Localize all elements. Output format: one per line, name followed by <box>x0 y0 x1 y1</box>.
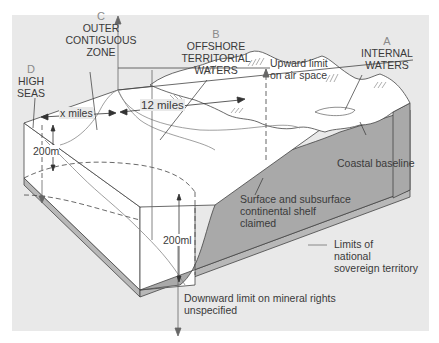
x-miles-label: x miles <box>59 107 94 119</box>
legend-label: Limits of national sovereign territory <box>334 238 418 274</box>
upward-limit-line-1: Upward limit <box>270 57 328 69</box>
zone-a-letter: A <box>359 35 415 47</box>
zone-b-name-line-1: OFFSHORE <box>176 40 256 52</box>
legend-line-3: sovereign territory <box>334 262 418 274</box>
zone-a-label: A INTERNAL WATERS <box>359 35 415 71</box>
upward-limit-line-2: on air space <box>270 69 328 81</box>
zone-d-name-line-1: HIGH <box>14 75 48 87</box>
zone-b-name-line-3: WATERS <box>176 64 256 76</box>
zone-b-label: B OFFSHORE TERRITORIAL WATERS <box>176 28 256 76</box>
legend-line-1: Limits of <box>334 238 418 250</box>
zone-d-name-line-2: SEAS <box>14 87 48 99</box>
zone-c-name-line-1: OUTER <box>56 22 146 34</box>
zone-c-letter: C <box>56 10 146 22</box>
zone-c-name-line-2: CONTIGUOUS <box>56 34 146 46</box>
zone-b-letter: B <box>176 28 256 40</box>
downward-limit-line-1: Downward limit on mineral rights <box>184 292 336 304</box>
depth-front-label: 200ml <box>163 234 192 246</box>
zone-a-name-line-1: INTERNAL <box>359 47 415 59</box>
zone-c-name-line-3: ZONE <box>56 46 146 58</box>
shelf-claim-line-2: continental shelf <box>240 205 351 217</box>
zone-c-label: C OUTER CONTIGUOUS ZONE <box>56 10 146 58</box>
upward-limit-label: Upward limit on air space <box>270 57 328 81</box>
shelf-claim-line-1: Surface and subsurface <box>240 193 351 205</box>
downward-limit-line-2: unspecified <box>184 304 336 316</box>
coastal-baseline-label: Coastal baseline <box>337 157 415 169</box>
block-right-face <box>393 103 410 198</box>
depth-left-label: 200m <box>33 145 59 157</box>
shelf-claim-label: Surface and subsurface continental shelf… <box>240 193 351 229</box>
twelve-miles-label: 12 miles <box>140 99 185 111</box>
zone-b-name-line-2: TERRITORIAL <box>176 52 256 64</box>
zone-a-name-line-2: WATERS <box>359 59 415 71</box>
law-of-the-sea-diagram: C OUTER CONTIGUOUS ZONE D HIGH SEAS B OF… <box>0 0 439 343</box>
zone-d-label: D HIGH SEAS <box>14 63 48 99</box>
legend-line-2: national <box>334 250 418 262</box>
downward-limit-label: Downward limit on mineral rights unspeci… <box>184 292 336 316</box>
shelf-claim-line-3: claimed <box>240 217 351 229</box>
zone-d-letter: D <box>14 63 48 75</box>
